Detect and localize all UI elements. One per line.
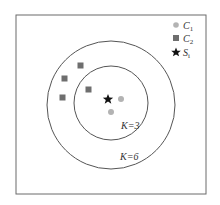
knn-diagram: K=3 K=6 C1 C2 Si [0, 0, 220, 205]
c2-point [86, 87, 92, 93]
circle-icon [173, 22, 179, 28]
c1-point [118, 96, 124, 102]
c2-point [60, 95, 66, 101]
square-icon [173, 35, 179, 41]
c2-point [62, 76, 68, 82]
diagram-frame [16, 15, 206, 194]
legend-label-c2: C2 [183, 33, 194, 46]
star-icon [171, 48, 181, 57]
c2-point [78, 63, 84, 69]
query-star-icon [103, 94, 113, 104]
legend-label-s: Si [183, 47, 190, 60]
circle-k6 [47, 41, 175, 169]
legend: C1 C2 Si [171, 20, 193, 60]
legend-label-c1: C1 [183, 20, 194, 33]
c1-point [108, 109, 114, 115]
k3-label: K=3 [120, 120, 139, 131]
k6-label: K=6 [119, 151, 138, 162]
class-c2-points [60, 63, 92, 101]
